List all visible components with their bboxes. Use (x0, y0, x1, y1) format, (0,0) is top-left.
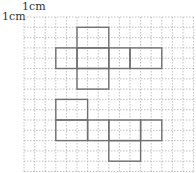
cuboid-nets (56, 27, 162, 161)
grid-diagram (0, 0, 196, 173)
net-1 (56, 27, 162, 89)
net-2 (56, 99, 162, 161)
